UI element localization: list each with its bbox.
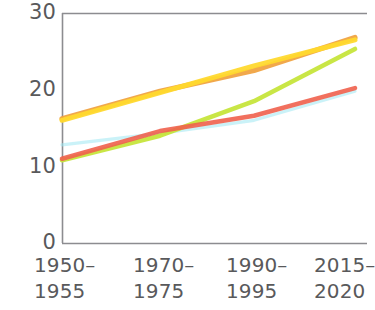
- y-tick-label-30: 30: [4, 2, 56, 23]
- x-tick-label-1990-1995: 1990– 1995: [226, 252, 287, 305]
- y-tick-label-0: 0: [4, 232, 56, 253]
- x-tick-label-2015-2020: 2015– 2020: [314, 252, 375, 305]
- series-line-red: [62, 88, 355, 159]
- series-line-yellow: [62, 40, 355, 121]
- x-tick-line1: 1990–: [226, 252, 287, 278]
- x-tick-line1: 1950–: [34, 252, 95, 278]
- chart-series-group: [62, 38, 355, 161]
- y-tick-label-20: 20: [4, 79, 56, 100]
- y-tick-label-10: 10: [4, 156, 56, 177]
- x-tick-line1: 2015–: [314, 252, 375, 278]
- x-tick-line2: 1975: [133, 278, 194, 304]
- x-tick-line2: 1995: [226, 278, 287, 304]
- x-tick-line2: 1955: [34, 278, 95, 304]
- x-tick-label-1970-1975: 1970– 1975: [133, 252, 194, 305]
- x-tick-label-1950-1955: 1950– 1955: [34, 252, 95, 305]
- x-axis-tick-labels: 1950– 1955 1970– 1975 1990– 1995 2015– 2…: [0, 252, 368, 310]
- x-tick-line1: 1970–: [133, 252, 194, 278]
- y-axis-tick-labels: 30 20 10 0: [0, 0, 56, 260]
- x-tick-line2: 2020: [314, 278, 375, 304]
